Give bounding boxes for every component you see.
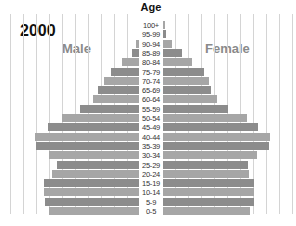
age-group-label: 20-24 xyxy=(139,170,163,179)
female-bar xyxy=(162,95,217,103)
age-group-label: 75-79 xyxy=(139,68,163,77)
male-label: Male xyxy=(62,41,91,56)
female-bar xyxy=(162,58,192,66)
male-bar xyxy=(122,58,140,66)
female-bar xyxy=(162,40,172,48)
age-group-label: 80-84 xyxy=(139,58,163,67)
year-label: 2000 xyxy=(20,22,56,40)
male-bar xyxy=(57,161,140,169)
population-pyramid: Age 2000 Male Female 100+95-9990-9485-89… xyxy=(0,0,296,226)
male-bar xyxy=(80,105,140,113)
age-group-label: 30-34 xyxy=(139,151,163,160)
gridline xyxy=(266,14,267,214)
female-bar xyxy=(162,151,257,159)
male-bar xyxy=(52,170,140,178)
female-bar xyxy=(162,49,182,57)
female-bar xyxy=(162,123,258,131)
age-group-label: 50-54 xyxy=(139,114,163,123)
female-bar xyxy=(162,207,250,215)
age-group-label: 85-89 xyxy=(139,49,163,58)
gridline xyxy=(292,14,293,214)
female-bar xyxy=(162,86,211,94)
female-bar xyxy=(162,188,254,196)
male-bar xyxy=(44,188,140,196)
age-group-label: 70-74 xyxy=(139,77,163,86)
age-group-label: 40-44 xyxy=(139,133,163,142)
gridline xyxy=(23,14,24,214)
female-bar xyxy=(162,133,270,141)
age-group-label: 90-94 xyxy=(139,40,163,49)
female-bar xyxy=(162,105,228,113)
female-bar xyxy=(162,68,204,76)
age-group-label: 35-39 xyxy=(139,142,163,151)
male-bar xyxy=(45,198,140,206)
female-bar xyxy=(162,179,254,187)
male-bar xyxy=(93,95,140,103)
age-group-label: 5-9 xyxy=(139,198,163,207)
female-bar xyxy=(162,161,248,169)
male-bar xyxy=(49,151,140,159)
gridline xyxy=(36,14,37,214)
age-group-label: 60-64 xyxy=(139,95,163,104)
age-group-label: 0-5 xyxy=(139,207,163,216)
age-group-label: 55-59 xyxy=(139,105,163,114)
age-group-label: 10-14 xyxy=(139,188,163,197)
age-group-label: 95-99 xyxy=(139,30,163,39)
male-bar xyxy=(98,86,140,94)
age-group-label: 25-29 xyxy=(139,161,163,170)
gridline xyxy=(279,14,280,214)
male-bar xyxy=(36,142,140,150)
male-bar xyxy=(104,77,140,85)
male-bar xyxy=(35,133,140,141)
female-bar xyxy=(162,114,247,122)
age-group-label: 45-49 xyxy=(139,123,163,132)
male-bar xyxy=(49,207,140,215)
age-group-label: 65-69 xyxy=(139,86,163,95)
age-group-label: 100+ xyxy=(139,21,163,30)
female-bar xyxy=(162,77,209,85)
age-group-label: 15-19 xyxy=(139,179,163,188)
male-bar xyxy=(44,179,140,187)
male-bar xyxy=(62,114,140,122)
male-bar xyxy=(111,68,140,76)
male-bar xyxy=(48,123,140,131)
female-bar xyxy=(162,198,254,206)
female-bar xyxy=(162,170,249,178)
female-bar xyxy=(162,142,269,150)
gridline xyxy=(10,14,11,214)
age-axis-title: Age xyxy=(126,1,176,13)
